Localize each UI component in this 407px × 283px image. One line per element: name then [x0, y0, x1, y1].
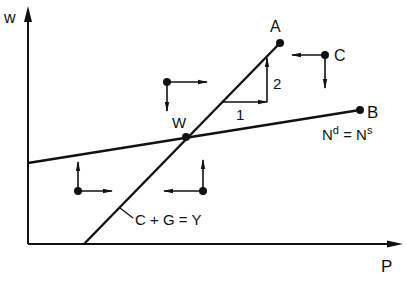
slope-run-label: 1: [236, 106, 244, 123]
region-lower-right-arrows: [164, 160, 207, 195]
equilibrium-point: [182, 133, 190, 141]
equilibrium-label: W: [172, 114, 187, 131]
slope-rise-label: 2: [273, 75, 281, 92]
y-axis: [24, 6, 32, 244]
region-c-arrows: [292, 51, 329, 88]
region-upper-left-arrows: [163, 78, 207, 111]
point-a: [276, 39, 284, 47]
y-axis-label: w: [3, 9, 16, 26]
labor-market-line: [28, 106, 364, 163]
labor-market-label: Nd = Ns: [322, 124, 373, 143]
region-lower-left-arrows: [74, 162, 112, 195]
point-c-label: C: [334, 47, 346, 64]
goods-line-leader: [120, 208, 133, 218]
point-b-label: B: [367, 103, 378, 122]
point-a-label: A: [270, 18, 281, 35]
point-b: [356, 106, 364, 114]
phase-diagram: w P A C + G = Y B Nd = Ns W 1 2 C: [0, 0, 407, 283]
x-axis-label: P: [381, 257, 392, 276]
goods-market-label: C + G = Y: [135, 211, 201, 228]
